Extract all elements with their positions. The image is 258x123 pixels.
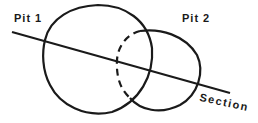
pit-1-outline (43, 5, 152, 113)
pit-1-label: Pit 1 (14, 12, 42, 24)
pit-2-label: Pit 2 (182, 12, 210, 24)
pit-2-outline (130, 30, 200, 110)
